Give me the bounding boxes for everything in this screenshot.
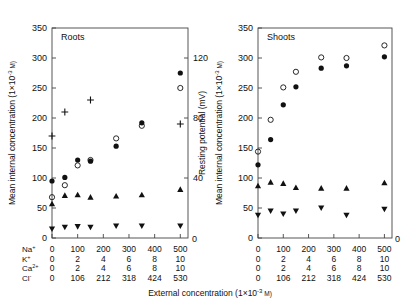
data-point [268, 137, 273, 142]
ion-value: 500 [377, 244, 391, 254]
data-point [268, 117, 273, 122]
ion-table-shoots: 0100200300400500024681002468100106212318… [256, 244, 392, 283]
ion-value: 0 [256, 254, 261, 264]
ion-value: 318 [122, 273, 136, 283]
right-axis-title: Resting potential (mV) [197, 91, 207, 175]
panel-title-shoots: Shoots [267, 32, 296, 42]
series-1 [49, 85, 183, 199]
x-axis [52, 234, 180, 238]
data-point [318, 185, 324, 191]
y-tick-label: 0 [42, 233, 47, 243]
ion-value: 2 [281, 254, 286, 264]
data-point [255, 162, 260, 167]
data-point [49, 133, 56, 140]
ion-value: 500 [173, 244, 187, 254]
scatter-figure: Roots05010015020025030035040801200010020… [0, 0, 407, 305]
y-axis-title-left: Mean internal concentration (1×10-3 M) [7, 61, 17, 205]
y-axis-title-shoots: Mean internal concentration (1×10-3 M) [214, 61, 224, 205]
data-point [87, 194, 93, 200]
ion-value: 2 [75, 263, 80, 273]
data-point [177, 121, 184, 128]
data-point [280, 212, 286, 218]
ion-value: 424 [148, 273, 162, 283]
data-point [49, 178, 54, 183]
ion-value: 0 [50, 244, 55, 254]
data-point [49, 201, 55, 207]
data-point [87, 97, 94, 104]
ion-value: 318 [327, 273, 341, 283]
panel-title-roots: Roots [61, 32, 85, 42]
ion-value: 8 [152, 254, 157, 264]
ion-value: 100 [71, 244, 85, 254]
series-2 [255, 179, 388, 191]
ion-value: 212 [96, 273, 110, 283]
ion-value: 2 [281, 263, 286, 273]
ion-value: 530 [377, 273, 391, 283]
data-point [255, 213, 261, 219]
data-point [62, 225, 68, 231]
data-point [268, 209, 274, 215]
data-point [293, 185, 299, 191]
ion-value: 212 [301, 273, 315, 283]
ion-table-roots: 0100200300400500024681002468100106212318… [50, 244, 188, 283]
x-axis-caption-group: External concentration (1×10-3 M) [148, 288, 272, 298]
y-tick-label: 350 [238, 23, 253, 33]
data-series-group [255, 43, 388, 219]
data-point [114, 144, 119, 149]
y-tick-label: 200 [32, 113, 47, 123]
data-point [382, 43, 387, 48]
y-tick-label: 250 [32, 83, 47, 93]
data-point [75, 224, 81, 230]
ion-value: 10 [176, 263, 186, 273]
ion-value: 0 [256, 273, 261, 283]
ion-value: 424 [352, 273, 366, 283]
plot-frame [52, 28, 188, 238]
ion-value: 0 [50, 263, 55, 273]
data-point [381, 180, 387, 186]
data-point [61, 109, 68, 116]
y2-tick-label: 120 [193, 53, 208, 63]
ion-value: 0 [50, 273, 55, 283]
data-point [318, 206, 324, 212]
data-point [139, 224, 145, 230]
series-0 [255, 54, 387, 167]
panel-shoots: Shoots0501001502002503003500010020030040… [238, 23, 400, 282]
data-point [62, 175, 67, 180]
ion-value: 2 [75, 254, 80, 264]
data-point [293, 84, 298, 89]
ion-value: 530 [173, 273, 187, 283]
ion-value: 4 [101, 254, 106, 264]
ion-value: 8 [357, 263, 362, 273]
ion-row-label: K+ [22, 254, 31, 264]
data-point [49, 227, 55, 233]
data-point [281, 85, 286, 90]
data-point [139, 192, 145, 198]
ion-row-label: Ca2+ [22, 263, 39, 273]
ion-value: 0 [256, 244, 261, 254]
y-tick-label: 50 [243, 203, 253, 213]
data-point [343, 185, 349, 191]
ion-row-labels: Na+K+Ca2+Cl- [22, 244, 39, 283]
series-1 [255, 43, 387, 154]
plot-frame [258, 28, 392, 238]
y-tick-label: 350 [32, 23, 47, 33]
y-tick-label: 300 [32, 53, 47, 63]
series-0 [49, 70, 183, 183]
data-point [343, 213, 349, 219]
ion-value: 10 [380, 254, 390, 264]
data-point [113, 224, 119, 230]
data-point [75, 163, 80, 168]
ion-value: 6 [127, 254, 132, 264]
ion-value: 4 [306, 263, 311, 273]
data-point [114, 136, 119, 141]
series-2 [49, 186, 184, 206]
y-tick-label: 50 [37, 203, 47, 213]
panel-roots: Roots05010015020025030035040801200010020… [32, 23, 208, 282]
data-point [381, 207, 387, 213]
y-tick-label: 300 [238, 53, 253, 63]
series-4 [49, 97, 184, 140]
ion-value: 300 [122, 244, 136, 254]
figure-root: Roots05010015020025030035040801200010020… [0, 0, 407, 305]
data-point [281, 102, 286, 107]
ion-value: 400 [352, 244, 366, 254]
